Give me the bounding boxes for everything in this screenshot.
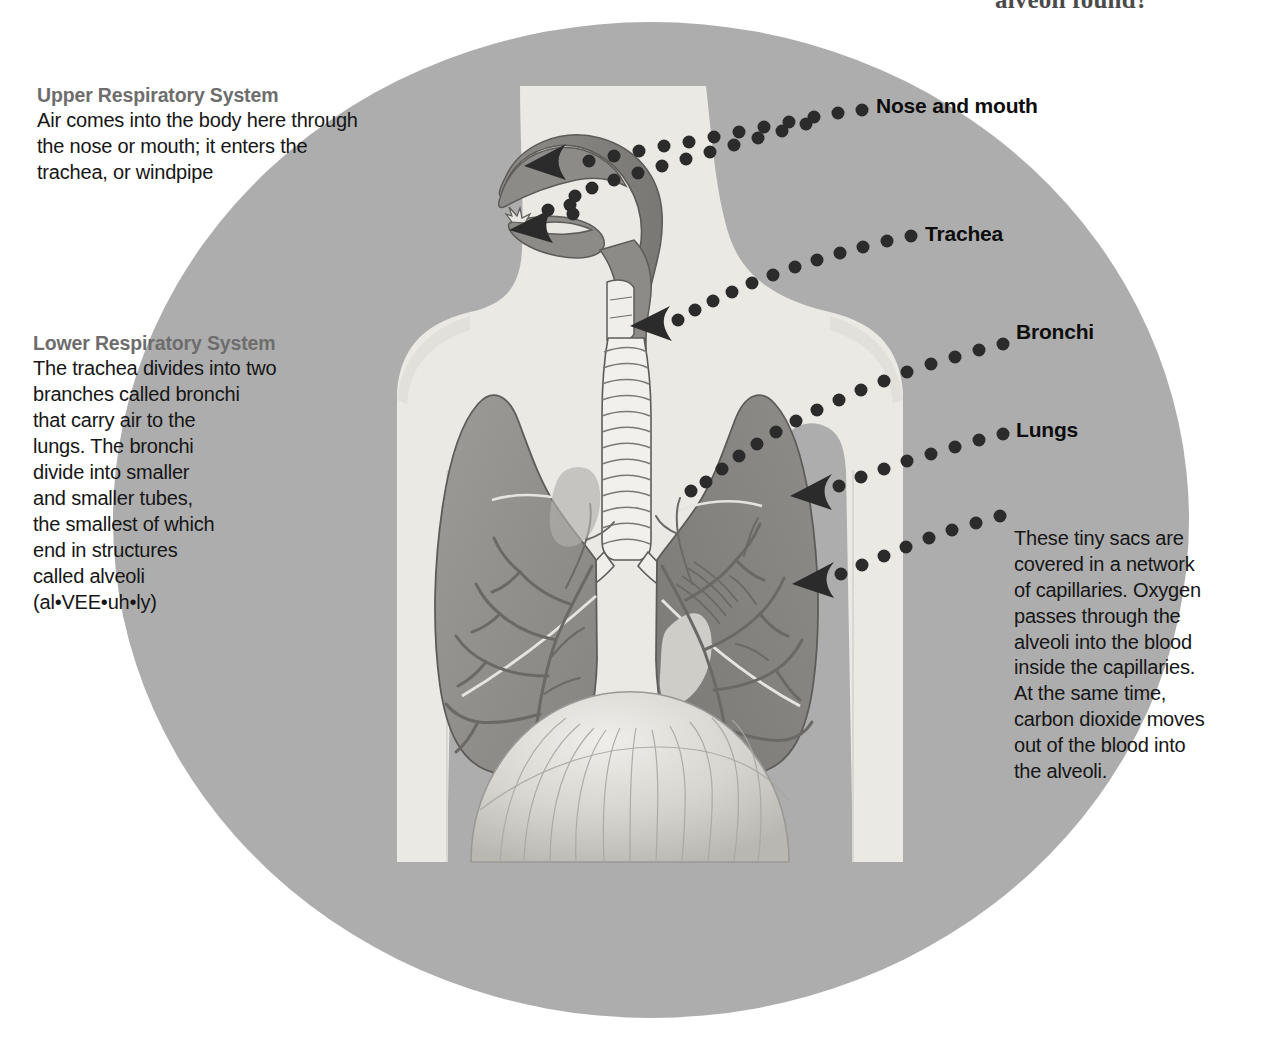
callout-label-lungs: Lungs [1016, 418, 1078, 442]
callout-label-bronchi: Bronchi [1016, 320, 1094, 344]
alveoli-body: These tiny sacs are covered in a network… [1014, 526, 1272, 785]
alveoli-text-block: Alveoli These tiny sacs are covered in a… [1014, 526, 1272, 785]
callout-label-trachea: Trachea [925, 222, 1003, 246]
upper-respiratory-heading: Upper Respiratory System [37, 84, 467, 106]
callout-label-nose-and-mouth: Nose and mouth [876, 94, 1038, 118]
respiratory-system-diagram: alveoli found? Upper Respiratory System … [0, 0, 1280, 1042]
lower-respiratory-text-block: Lower Respiratory System The trachea div… [33, 332, 363, 615]
top-question-fragment: alveoli found? [995, 0, 1149, 14]
upper-respiratory-body: Air comes into the body here through the… [37, 107, 467, 185]
lower-respiratory-body: The trachea divides into two branches ca… [33, 355, 363, 615]
lower-respiratory-heading: Lower Respiratory System [33, 332, 363, 354]
upper-respiratory-text-block: Upper Respiratory System Air comes into … [37, 84, 467, 185]
